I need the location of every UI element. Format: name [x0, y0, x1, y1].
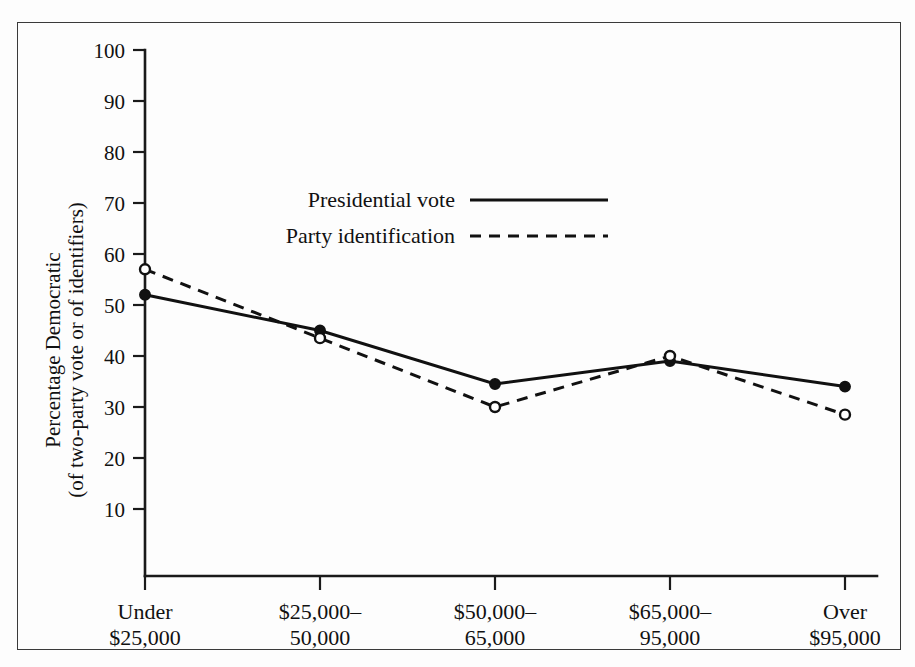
y-tick-label-50: 50 [104, 294, 125, 318]
x-tick-label-1-line2: 50,000 [290, 625, 351, 650]
x-tick-label-0-line2: $25,000 [109, 625, 181, 650]
y-tick-label-80: 80 [104, 141, 125, 165]
data-point-1-0 [140, 264, 150, 274]
y-axis-title-line2: (of two-party vote or of identifiers) [64, 202, 88, 498]
figure-container: 100 90 80 70 60 50 40 30 20 10 Percentag… [0, 0, 915, 667]
data-point-1-3 [665, 351, 675, 361]
x-tick-label-2-line1: $50,000– [454, 599, 538, 624]
y-tick-label-10: 10 [104, 498, 125, 522]
y-tick-label-40: 40 [104, 345, 125, 369]
x-tick-label-3-line1: $65,000– [629, 599, 713, 624]
y-axis-tick-labels: 100 90 80 70 60 50 40 30 20 10 [94, 39, 126, 522]
data-point-1-2 [490, 402, 500, 412]
y-tick-label-30: 30 [104, 396, 125, 420]
x-tick-label-0-line1: Under [118, 599, 174, 624]
y-tick-label-70: 70 [104, 192, 125, 216]
y-axis-title: Percentage Democratic (of two-party vote… [41, 202, 88, 498]
y-tick-label-100: 100 [94, 39, 126, 63]
data-series-layer [140, 264, 850, 419]
x-axis-tick-labels: Under $25,000 $25,000– 50,000 $50,000– 6… [109, 599, 881, 650]
x-tick-label-2-line2: 65,000 [465, 625, 526, 650]
series-line-presidential-vote [145, 295, 845, 387]
y-tick-label-60: 60 [104, 243, 125, 267]
x-tick-label-4-line2: $95,000 [809, 625, 881, 650]
y-axis-title-line1: Percentage Democratic [41, 252, 65, 447]
data-point-0-2 [490, 379, 500, 389]
data-point-0-4 [840, 381, 850, 391]
line-chart: 100 90 80 70 60 50 40 30 20 10 Percentag… [0, 0, 915, 667]
data-point-1-1 [315, 333, 325, 343]
series-line-party-identification [145, 269, 845, 414]
x-tick-label-1-line1: $25,000– [279, 599, 363, 624]
y-axis-ticks [133, 50, 145, 509]
data-point-0-0 [140, 290, 150, 300]
x-axis-ticks [145, 576, 845, 590]
y-tick-label-20: 20 [104, 447, 125, 471]
legend-label-party-identification: Party identification [286, 223, 455, 248]
chart-legend: Presidential vote Party identification [286, 187, 608, 248]
y-tick-label-90: 90 [104, 90, 125, 114]
x-tick-label-3-line2: 95,000 [640, 625, 701, 650]
x-tick-label-4-line1: Over [823, 599, 868, 624]
data-point-1-4 [840, 410, 850, 420]
legend-label-presidential-vote: Presidential vote [308, 187, 455, 212]
